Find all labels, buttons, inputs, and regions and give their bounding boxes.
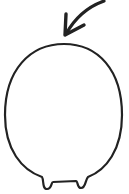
creature-body-icon: [5, 44, 122, 189]
illustration: [0, 0, 129, 194]
curved-arrow-icon: [65, 1, 104, 35]
